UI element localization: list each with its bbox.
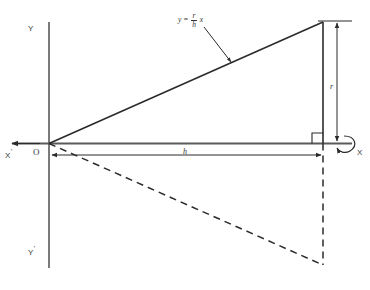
equation-denominator: h [191,21,197,29]
figure-canvas: Y Y' X' X O r h y = r h x [0,0,370,290]
equation-label: y = r h x [178,12,203,28]
y-axis-bottom-prime: ' [34,245,36,252]
diagram-svg [0,0,370,290]
y-axis-bottom-label: Y' [28,245,35,257]
equation-equals: = [183,15,188,24]
right-angle-marker [312,133,323,144]
x-axis-left-prime: ' [11,148,13,155]
equation-lhs: y [178,15,181,24]
equation-leader-line [204,27,231,62]
equation-variable: x [200,15,203,24]
x-axis-left-label: X' [5,148,12,160]
y-axis-top-label: Y [28,24,34,33]
origin-label: O [33,147,40,157]
height-dimension-label: r [330,82,333,91]
base-dimension-label: h [183,147,187,156]
equation-fraction: r h [191,12,197,28]
generating-line [49,22,323,144]
mirror-generating-line [49,144,323,266]
x-axis-right-label: X [357,148,363,157]
